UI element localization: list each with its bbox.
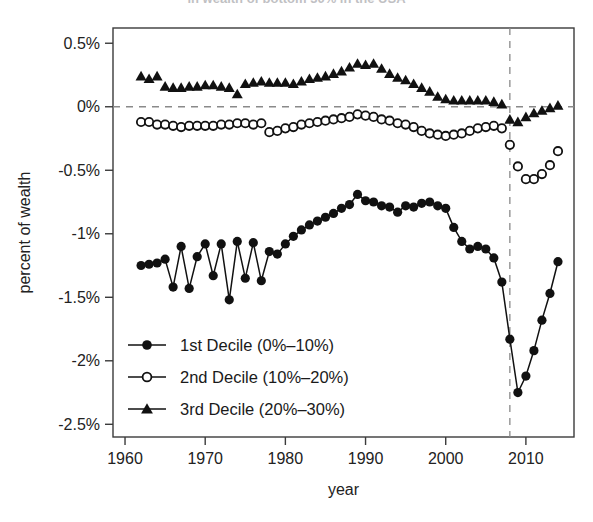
- data-point: [546, 161, 554, 169]
- y-tick-label: -1.5%: [58, 289, 100, 306]
- data-point: [249, 120, 257, 128]
- data-point: [353, 190, 362, 199]
- data-point: [273, 249, 282, 258]
- data-point: [289, 232, 298, 241]
- data-point: [265, 247, 274, 256]
- data-point: [433, 201, 442, 210]
- data-point: [152, 258, 161, 267]
- data-point: [498, 124, 506, 132]
- y-tick-label: -2.5%: [58, 416, 100, 433]
- data-point: [450, 130, 458, 138]
- legend-label-3: 3rd Decile (20%–30%): [180, 400, 345, 418]
- data-point: [369, 197, 378, 206]
- data-point: [432, 91, 443, 101]
- data-point: [393, 208, 402, 217]
- data-point: [488, 96, 499, 106]
- data-point: [425, 129, 433, 137]
- data-point: [297, 225, 306, 234]
- data-point: [441, 204, 450, 213]
- legend-marker-filled-circle: [142, 340, 152, 350]
- data-point: [152, 71, 163, 81]
- data-point: [376, 63, 387, 73]
- data-point: [504, 114, 515, 124]
- data-point: [241, 119, 249, 127]
- data-point: [217, 239, 226, 248]
- data-point: [249, 238, 258, 247]
- data-point: [225, 295, 234, 304]
- data-point: [256, 76, 267, 86]
- data-point: [553, 257, 562, 266]
- data-point: [425, 197, 434, 206]
- data-point: [233, 237, 242, 246]
- data-point: [473, 242, 482, 251]
- data-point: [497, 277, 506, 286]
- x-tick-label: 2010: [508, 450, 544, 467]
- data-point: [377, 201, 386, 210]
- series-1: [136, 190, 562, 397]
- data-point: [177, 242, 186, 251]
- series-line-1st-decile: [141, 194, 558, 392]
- y-tick-label: 0.5%: [64, 35, 100, 52]
- data-point: [482, 123, 490, 131]
- data-point: [265, 128, 273, 136]
- data-point: [489, 253, 498, 262]
- x-tick-label: 1990: [348, 450, 384, 467]
- data-point: [161, 120, 169, 128]
- data-point: [449, 223, 458, 232]
- legend-label-2: 2nd Decile (10%–20%): [180, 368, 349, 386]
- y-tick-label: 0%: [77, 98, 100, 115]
- x-tick-label: 2000: [428, 450, 464, 467]
- data-point: [505, 335, 514, 344]
- data-point: [529, 346, 538, 355]
- data-point: [177, 123, 185, 131]
- data-point: [160, 81, 171, 91]
- data-point: [345, 200, 354, 209]
- data-point: [136, 71, 147, 81]
- data-point: [442, 132, 450, 140]
- data-point: [329, 115, 337, 123]
- data-point: [409, 202, 418, 211]
- y-axis-title: percent of wealth: [16, 172, 33, 294]
- data-point: [361, 196, 370, 205]
- data-point: [257, 276, 266, 285]
- data-point: [474, 124, 482, 132]
- legend-marker-open-circle: [143, 373, 152, 382]
- data-point: [193, 252, 202, 261]
- data-point: [209, 271, 218, 280]
- data-point: [225, 120, 233, 128]
- x-tick-label: 1960: [107, 450, 143, 467]
- data-point: [480, 95, 491, 105]
- data-point: [208, 80, 219, 90]
- data-point: [513, 388, 522, 397]
- chart-container: in wealth of bottom 30% in the USA 0.5%0…: [0, 0, 593, 522]
- data-point: [530, 175, 538, 183]
- data-point: [514, 162, 522, 170]
- data-point: [136, 261, 145, 270]
- data-point: [216, 81, 227, 91]
- data-point: [545, 289, 554, 298]
- data-point: [169, 283, 178, 292]
- data-point: [417, 199, 426, 208]
- data-point: [538, 170, 546, 178]
- data-point: [185, 284, 194, 293]
- y-tick-label: -0.5%: [58, 162, 100, 179]
- data-point: [281, 124, 289, 132]
- data-point: [552, 100, 563, 110]
- data-point: [481, 244, 490, 253]
- data-point: [257, 119, 265, 127]
- data-point: [384, 68, 395, 78]
- data-point: [337, 204, 346, 213]
- data-point: [554, 147, 562, 155]
- legend-label-1: 1st Decile (0%–10%): [180, 336, 334, 354]
- data-point: [161, 255, 170, 264]
- data-point: [537, 316, 546, 325]
- data-point: [521, 371, 530, 380]
- y-tick-label: -1%: [72, 225, 100, 242]
- data-point: [281, 239, 290, 248]
- data-point: [457, 237, 466, 246]
- y-tick-label: -2%: [72, 352, 100, 369]
- data-point: [313, 118, 321, 126]
- data-point: [280, 77, 291, 87]
- data-point: [201, 239, 210, 248]
- data-point: [241, 274, 250, 283]
